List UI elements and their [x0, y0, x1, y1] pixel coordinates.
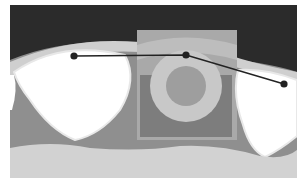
measure-point-left[interactable]	[70, 52, 77, 59]
measure-point-center[interactable]	[182, 51, 189, 58]
implant-core	[166, 66, 206, 106]
measure-point-right[interactable]	[280, 80, 287, 87]
dental-diagram	[0, 0, 306, 190]
